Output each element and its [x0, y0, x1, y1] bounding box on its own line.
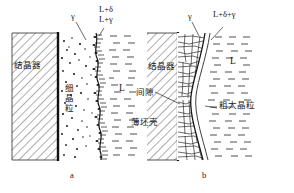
label-gap: 间隙: [136, 88, 154, 98]
label-fine-grains-a: 细晶粒: [64, 83, 75, 113]
liquid-region-a: [109, 36, 137, 155]
panel-a: γ L+δ L+γ 结晶器 细晶粒 L a: [0, 0, 147, 193]
liquid-region-b: [208, 37, 252, 156]
label-phase-b: L+δ+γ: [213, 10, 236, 19]
label-thin-shell: 薄坯壳: [131, 118, 158, 128]
label-coarse-grains-b: 粗大晶粒: [219, 101, 255, 111]
solidification-figure: γ L+δ L+γ 结晶器 细晶粒 L a: [0, 0, 294, 193]
caption-a: a: [70, 170, 74, 180]
caption-b: b: [202, 170, 206, 180]
label-gamma-a: γ: [71, 12, 75, 21]
label-mold-b: 结晶器: [148, 62, 175, 72]
label-phase-l-gamma-a: L+γ: [99, 15, 113, 24]
solidification-front-a: [92, 33, 108, 160]
label-liquid-b: L: [230, 57, 236, 66]
panel-b: γ L+δ+γ 结晶器 L 粗大晶粒 b: [147, 0, 294, 193]
label-gamma-b: γ: [188, 12, 192, 21]
leader-lines-a: [76, 22, 104, 40]
panel-b-artwork: [147, 0, 294, 193]
label-phase-l-delta-a: L+δ: [99, 5, 113, 14]
label-liquid-a: L: [119, 84, 125, 93]
mold-wall-a: [12, 33, 57, 160]
label-mold-a: 结晶器: [14, 61, 41, 71]
